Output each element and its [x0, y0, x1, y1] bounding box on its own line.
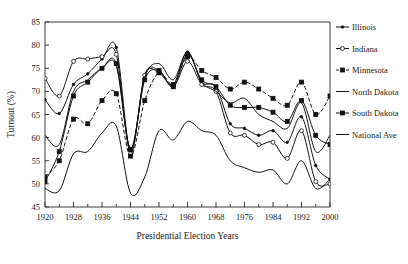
data-point-marker — [72, 59, 76, 63]
data-point-marker — [228, 103, 232, 107]
data-point-marker — [157, 69, 161, 73]
y-tick-label: 75 — [32, 63, 41, 73]
x-axis-title: Presidential Election Years — [136, 231, 238, 241]
x-tick-label: 1960 — [179, 212, 196, 222]
data-point-marker — [43, 76, 47, 80]
data-point-marker — [257, 143, 261, 147]
legend-item-indiana[interactable]: Indiana — [336, 44, 378, 54]
y-tick-label: 45 — [32, 202, 41, 212]
series-south-dakota — [43, 52, 332, 183]
data-point-marker — [243, 80, 247, 84]
data-point-marker — [100, 66, 104, 70]
data-point-marker — [257, 106, 261, 110]
legend-item-minnesota[interactable]: Minnesota — [336, 65, 388, 75]
data-point-marker — [57, 150, 61, 154]
data-point-marker — [129, 154, 133, 158]
x-tick-label: 1936 — [94, 212, 111, 222]
data-point-marker — [72, 83, 75, 86]
data-point-marker — [300, 129, 304, 133]
x-tick-label: 1984 — [265, 212, 283, 222]
data-point-marker — [257, 87, 261, 91]
data-point-marker — [72, 94, 76, 98]
y-tick-label: 80 — [32, 40, 41, 50]
data-point-marker — [129, 147, 133, 151]
series-line — [45, 48, 330, 187]
y-tick-label: 70 — [32, 86, 41, 96]
data-point-marker — [114, 52, 118, 56]
data-point-marker — [328, 143, 332, 147]
x-tick-label: 1952 — [151, 212, 168, 222]
data-point-marker — [114, 62, 118, 66]
data-point-marker — [328, 182, 332, 186]
data-point-marker — [86, 122, 90, 126]
legend-item-label: Minnesota — [352, 65, 388, 75]
data-point-marker — [285, 119, 289, 123]
data-point-marker — [228, 87, 232, 91]
data-point-marker — [58, 112, 61, 115]
data-point-marker — [86, 80, 90, 84]
y-tick-label: 65 — [32, 110, 41, 120]
data-point-marker — [86, 57, 90, 61]
x-tick-label: 1920 — [37, 212, 54, 222]
data-point-marker — [285, 156, 289, 160]
data-point-marker — [328, 94, 332, 98]
y-tick-label: 55 — [32, 156, 41, 166]
y-tick-label: 85 — [32, 17, 41, 27]
data-point-marker — [86, 73, 89, 76]
data-point-marker — [44, 98, 47, 101]
y-axis-title: Turnout (%) — [6, 91, 17, 138]
legend-item-north-dakota[interactable]: North Dakota — [336, 87, 399, 97]
data-point-marker — [214, 76, 218, 80]
x-axis: 1920192819361944195219601968197619841992… — [37, 202, 339, 222]
data-point-marker — [341, 68, 345, 72]
data-point-marker — [243, 133, 247, 137]
data-point-marker — [300, 116, 303, 119]
legend-item-south-dakota[interactable]: South Dakota — [336, 108, 399, 118]
data-point-marker — [286, 141, 289, 144]
x-tick-label: 2000 — [322, 212, 339, 222]
data-point-marker — [257, 134, 260, 137]
legend-item-label: National Ave — [352, 130, 397, 140]
legend: IllinoisIndianaMinnesotaNorth DakotaSout… — [336, 22, 399, 140]
data-point-marker — [285, 103, 289, 107]
data-point-marker — [314, 164, 317, 167]
y-tick-label: 60 — [32, 133, 41, 143]
data-point-marker — [143, 99, 147, 103]
data-point-marker — [271, 96, 275, 100]
data-point-marker — [271, 110, 275, 114]
y-tick-label: 50 — [32, 179, 41, 189]
data-point-marker — [341, 111, 345, 115]
data-point-marker — [186, 59, 190, 63]
data-point-marker — [114, 92, 118, 96]
legend-item-label: Illinois — [352, 22, 376, 32]
x-tick-label: 1968 — [208, 212, 225, 222]
x-tick-label: 1976 — [236, 212, 253, 222]
data-point-marker — [229, 122, 232, 125]
data-point-marker — [214, 85, 218, 89]
data-point-marker — [57, 159, 61, 163]
x-tick-label: 1928 — [65, 212, 82, 222]
legend-item-national-ave[interactable]: National Ave — [336, 130, 397, 140]
turnout-line-chart: 455055606570758085Turnout (%)19201928193… — [0, 0, 408, 264]
chart-canvas: 455055606570758085Turnout (%)19201928193… — [0, 0, 408, 264]
data-point-marker — [300, 99, 304, 103]
data-point-marker — [243, 106, 247, 110]
data-point-marker — [271, 140, 275, 144]
data-point-marker — [314, 113, 318, 117]
data-point-marker — [272, 129, 275, 132]
data-point-marker — [57, 94, 61, 98]
series-line — [45, 52, 330, 152]
legend-item-label: North Dakota — [352, 87, 399, 97]
data-point-marker — [43, 180, 47, 184]
data-point-marker — [186, 52, 190, 56]
x-tick-label: 1992 — [293, 212, 310, 222]
data-point-marker — [100, 99, 104, 103]
data-point-marker — [115, 46, 118, 49]
data-point-marker — [72, 117, 76, 121]
legend-item-illinois[interactable]: Illinois — [336, 22, 376, 32]
data-point-marker — [243, 127, 246, 130]
plot-frame — [45, 22, 330, 207]
data-point-marker — [200, 69, 204, 73]
data-point-marker — [100, 55, 104, 59]
data-point-marker — [300, 80, 304, 84]
